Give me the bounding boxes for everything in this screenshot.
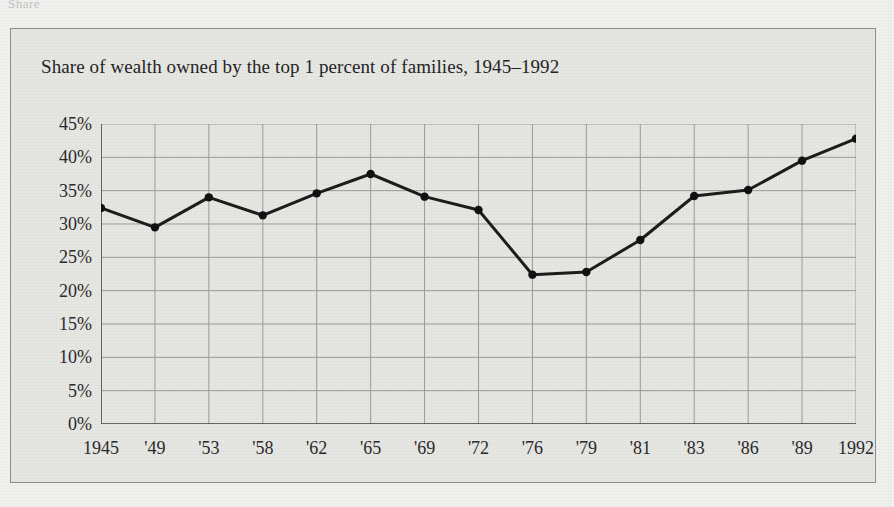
y-axis-tick-label: 15% — [59, 314, 92, 335]
data-point-marker — [744, 186, 752, 194]
data-point-marker — [205, 193, 213, 201]
chart-title: Share of wealth owned by the top 1 perce… — [41, 56, 559, 78]
x-axis-tick-label: '49 — [144, 438, 165, 459]
data-point-marker — [151, 223, 159, 231]
x-axis-tick-label: '79 — [576, 438, 597, 459]
x-axis-tick-label: '53 — [198, 438, 219, 459]
data-point-marker — [690, 192, 698, 200]
x-axis-tick-label: '58 — [252, 438, 273, 459]
x-axis-tick-label: '62 — [306, 438, 327, 459]
y-axis-tick-label: 5% — [68, 380, 92, 401]
y-axis-tick-label: 10% — [59, 347, 92, 368]
x-axis-tick-label: 1945 — [83, 438, 119, 459]
cut-off-text-fragment: Share — [8, 0, 40, 12]
x-axis-tick-label: '81 — [630, 438, 651, 459]
data-point-marker — [528, 270, 536, 278]
x-axis-tick-label: '65 — [360, 438, 381, 459]
y-axis-tick-label: 40% — [59, 147, 92, 168]
x-axis-tick-label: '86 — [738, 438, 759, 459]
data-point-marker — [101, 204, 105, 212]
plot-area: 0%5%10%15%20%25%30%35%40%45% 1945'49'53'… — [101, 124, 856, 424]
data-point-marker — [420, 192, 428, 200]
data-point-marker — [313, 189, 321, 197]
data-point-marker — [366, 170, 374, 178]
data-point-marker — [798, 156, 806, 164]
y-axis-tick-label: 0% — [68, 414, 92, 435]
x-axis-tick-label: '89 — [791, 438, 812, 459]
data-point-marker — [259, 211, 267, 219]
data-point-marker — [474, 206, 482, 214]
y-axis-tick-label: 45% — [59, 114, 92, 135]
x-axis-tick-label: '69 — [414, 438, 435, 459]
x-axis-tick-label: '76 — [522, 438, 543, 459]
figure-border-box: Share of wealth owned by the top 1 perce… — [10, 28, 876, 483]
y-axis-tick-label: 35% — [59, 180, 92, 201]
x-axis-tick-label: '72 — [468, 438, 489, 459]
data-point-marker — [582, 268, 590, 276]
data-point-marker — [636, 236, 644, 244]
y-axis-tick-label: 25% — [59, 247, 92, 268]
y-axis-tick-label: 20% — [59, 280, 92, 301]
chart-canvas — [101, 124, 856, 424]
x-axis-tick-label: 1992 — [838, 438, 874, 459]
x-axis-tick-label: '83 — [684, 438, 705, 459]
y-axis-tick-label: 30% — [59, 214, 92, 235]
vertical-gridlines — [101, 124, 856, 424]
